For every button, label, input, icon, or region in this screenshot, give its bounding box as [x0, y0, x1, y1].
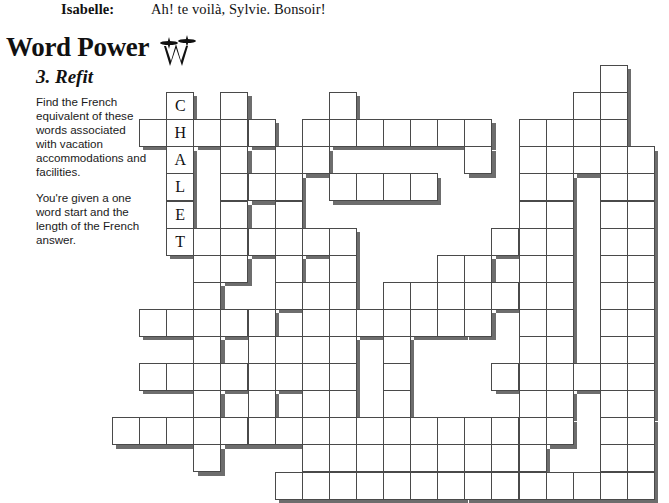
grid-cell[interactable] [220, 173, 248, 201]
grid-cell-seed[interactable]: T [166, 228, 194, 256]
grid-cell[interactable] [464, 146, 492, 174]
grid-cell[interactable] [600, 282, 628, 310]
grid-cell[interactable] [302, 309, 330, 337]
grid-cell[interactable] [600, 201, 628, 229]
grid-cell[interactable] [383, 119, 411, 147]
grid-cell[interactable] [491, 472, 519, 500]
grid-cell[interactable] [193, 444, 221, 472]
grid-cell[interactable] [410, 119, 438, 147]
grid-cell[interactable] [220, 309, 248, 337]
grid-cell[interactable] [546, 417, 574, 445]
grid-cell[interactable] [302, 472, 330, 500]
grid-cell[interactable] [491, 363, 519, 391]
grid-cell[interactable] [275, 173, 303, 201]
grid-cell-seed[interactable]: L [166, 173, 194, 201]
grid-cell[interactable] [627, 146, 655, 174]
grid-cell[interactable] [220, 201, 248, 229]
grid-cell[interactable] [519, 146, 547, 174]
grid-cell[interactable] [356, 417, 384, 445]
grid-cell[interactable] [329, 444, 357, 472]
grid-cell[interactable] [546, 146, 574, 174]
grid-cell[interactable] [546, 173, 574, 201]
grid-cell[interactable] [383, 363, 411, 391]
grid-cell-seed[interactable]: H [166, 119, 194, 147]
grid-cell[interactable] [600, 417, 628, 445]
grid-cell[interactable] [383, 417, 411, 445]
grid-cell[interactable] [248, 173, 276, 201]
grid-cell[interactable] [410, 472, 438, 500]
grid-cell[interactable] [464, 417, 492, 445]
grid-cell[interactable] [193, 255, 221, 283]
grid-cell[interactable] [600, 309, 628, 337]
grid-cell[interactable] [220, 92, 248, 120]
grid-cell[interactable] [275, 363, 303, 391]
grid-cell[interactable] [383, 444, 411, 472]
grid-cell[interactable] [519, 336, 547, 364]
grid-cell[interactable] [546, 201, 574, 229]
grid-cell[interactable] [546, 309, 574, 337]
grid-cell[interactable] [464, 282, 492, 310]
grid-cell[interactable] [600, 92, 628, 120]
grid-cell[interactable] [600, 119, 628, 147]
grid-cell[interactable] [519, 417, 547, 445]
grid-cell-seed[interactable]: C [166, 92, 194, 120]
grid-cell[interactable] [193, 336, 221, 364]
grid-cell[interactable] [302, 282, 330, 310]
grid-cell[interactable] [220, 363, 248, 391]
grid-cell[interactable] [600, 472, 628, 500]
grid-cell[interactable] [573, 363, 601, 391]
grid-cell[interactable] [546, 119, 574, 147]
grid-cell[interactable] [546, 390, 574, 418]
grid-cell[interactable] [627, 309, 655, 337]
grid-cell[interactable] [329, 417, 357, 445]
grid-cell[interactable] [519, 363, 547, 391]
grid-cell[interactable] [627, 336, 655, 364]
grid-cell[interactable] [275, 282, 303, 310]
grid-cell[interactable] [275, 472, 303, 500]
grid-cell[interactable] [329, 472, 357, 500]
grid-cell[interactable] [329, 173, 357, 201]
grid-cell[interactable] [600, 390, 628, 418]
grid-cell[interactable] [546, 336, 574, 364]
grid-cell[interactable] [139, 363, 167, 391]
grid-cell[interactable] [302, 390, 330, 418]
grid-cell[interactable] [275, 336, 303, 364]
grid-cell[interactable] [627, 390, 655, 418]
grid-cell-seed[interactable]: A [166, 146, 194, 174]
grid-cell[interactable] [627, 228, 655, 256]
grid-cell[interactable] [302, 146, 330, 174]
grid-cell[interactable] [193, 282, 221, 310]
grid-cell[interactable] [302, 336, 330, 364]
grid-cell[interactable] [248, 390, 276, 418]
grid-cell[interactable] [600, 173, 628, 201]
grid-cell[interactable] [329, 228, 357, 256]
grid-cell[interactable] [437, 444, 465, 472]
grid-cell[interactable] [248, 228, 276, 256]
grid-cell[interactable] [302, 417, 330, 445]
grid-cell[interactable] [356, 119, 384, 147]
grid-cell[interactable] [437, 119, 465, 147]
grid-cell[interactable] [139, 119, 167, 147]
grid-cell[interactable] [139, 309, 167, 337]
grid-cell[interactable] [627, 201, 655, 229]
grid-cell[interactable] [410, 444, 438, 472]
grid-cell[interactable] [166, 309, 194, 337]
grid-cell[interactable] [491, 417, 519, 445]
grid-cell[interactable] [519, 309, 547, 337]
grid-cell[interactable] [193, 119, 221, 147]
grid-cell-seed[interactable]: E [166, 201, 194, 229]
grid-cell[interactable] [329, 309, 357, 337]
grid-cell[interactable] [546, 472, 574, 500]
grid-cell[interactable] [356, 472, 384, 500]
grid-cell[interactable] [329, 390, 357, 418]
grid-cell[interactable] [329, 282, 357, 310]
grid-cell[interactable] [220, 417, 248, 445]
grid-cell[interactable] [464, 309, 492, 337]
grid-cell[interactable] [519, 390, 547, 418]
grid-cell[interactable] [491, 282, 519, 310]
grid-cell[interactable] [519, 201, 547, 229]
grid-cell[interactable] [302, 444, 330, 472]
grid-cell[interactable] [546, 282, 574, 310]
grid-cell[interactable] [329, 255, 357, 283]
grid-cell[interactable] [302, 228, 330, 256]
